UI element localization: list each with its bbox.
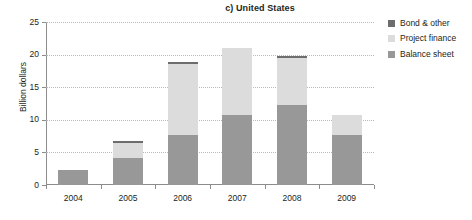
bar-stack <box>113 22 143 185</box>
x-axis-tick <box>374 185 375 189</box>
bar-stack <box>222 22 252 185</box>
y-axis-tick <box>42 152 46 153</box>
chart-legend: Bond & otherProject financeBalance sheet <box>388 18 472 65</box>
y-axis-tick-label: 0 <box>14 181 39 190</box>
y-axis-tick <box>42 22 46 23</box>
gridline <box>46 120 374 121</box>
y-axis-line <box>46 22 47 185</box>
bar-segment <box>168 62 198 63</box>
x-axis-tick <box>101 185 102 189</box>
y-axis-tick-label: 25 <box>14 18 39 27</box>
legend-swatch-icon <box>388 35 395 42</box>
legend-item[interactable]: Balance sheet <box>388 49 472 59</box>
x-axis-tick-label: 2006 <box>160 194 206 203</box>
x-axis-tick-label: 2007 <box>214 194 260 203</box>
legend-swatch-icon <box>388 20 395 27</box>
x-axis-tick <box>210 185 211 189</box>
chart-figure: c) United States Billion dollars 0510152… <box>0 0 472 220</box>
bar-segment <box>168 64 198 136</box>
bar-segment <box>277 56 307 58</box>
bar-segment <box>58 170 88 185</box>
x-axis-tick-label: 2009 <box>324 194 370 203</box>
bar-stack <box>58 22 88 185</box>
y-axis-tick-label: 10 <box>14 115 39 124</box>
chart-title: c) United States <box>150 3 370 13</box>
bar-stack <box>168 22 198 185</box>
bar-stack <box>277 22 307 185</box>
y-axis-tick-label: 5 <box>14 148 39 157</box>
plot-area: 0510152025 200420052006200720082009 <box>46 22 374 185</box>
y-axis-tick <box>42 87 46 88</box>
legend-swatch-icon <box>388 51 395 58</box>
x-axis-tick <box>265 185 266 189</box>
bar-segment <box>222 115 252 185</box>
legend-item[interactable]: Project finance <box>388 34 472 44</box>
x-axis-tick-label: 2008 <box>269 194 315 203</box>
x-axis-tick <box>319 185 320 189</box>
x-axis-tick <box>155 185 156 189</box>
y-axis-tick <box>42 120 46 121</box>
gridline <box>46 87 374 88</box>
bar-segment <box>332 115 362 135</box>
legend-item-label: Balance sheet <box>400 50 454 59</box>
x-axis-tick-label: 2005 <box>105 194 151 203</box>
bar-segment <box>277 58 307 106</box>
legend-item-label: Project finance <box>400 34 456 43</box>
bar-segment <box>168 135 198 185</box>
x-axis-tick <box>46 185 47 189</box>
bar-stack <box>332 22 362 185</box>
legend-item[interactable]: Bond & other <box>388 18 472 28</box>
x-axis-tick-label: 2004 <box>50 194 96 203</box>
bar-segment <box>277 105 307 185</box>
bar-segment <box>332 135 362 185</box>
bar-segment <box>113 158 143 185</box>
y-axis-tick-label: 20 <box>14 50 39 59</box>
y-axis-tick <box>42 55 46 56</box>
bar-segment <box>113 141 143 143</box>
gridline <box>46 55 374 56</box>
y-axis-tick-label: 15 <box>14 83 39 92</box>
legend-item-label: Bond & other <box>400 19 450 28</box>
gridline <box>46 152 374 153</box>
bar-segment <box>222 48 252 115</box>
gridline <box>46 22 374 23</box>
bar-segment <box>113 143 143 158</box>
